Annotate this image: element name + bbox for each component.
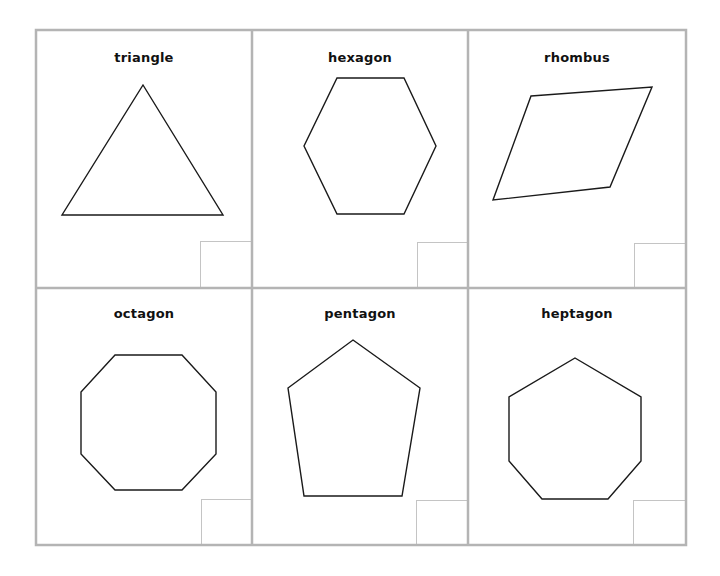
shape-card-hexagon: hexagon xyxy=(252,30,468,288)
shape-label: hexagon xyxy=(252,50,468,65)
shape-label: pentagon xyxy=(252,306,468,321)
shape-card-octagon: octagon xyxy=(36,288,252,545)
shape-label: octagon xyxy=(36,306,252,321)
shape-card-heptagon: heptagon xyxy=(468,288,686,545)
shape-label: rhombus xyxy=(468,50,686,65)
shape-card-triangle: triangle xyxy=(36,30,252,288)
shape-label: heptagon xyxy=(468,306,686,321)
shape-label: triangle xyxy=(36,50,252,65)
shapes-worksheet: trianglehexagonrhombusoctagonpentagonhep… xyxy=(0,0,720,576)
shape-card-rhombus: rhombus xyxy=(468,30,686,288)
shape-card-pentagon: pentagon xyxy=(252,288,468,545)
